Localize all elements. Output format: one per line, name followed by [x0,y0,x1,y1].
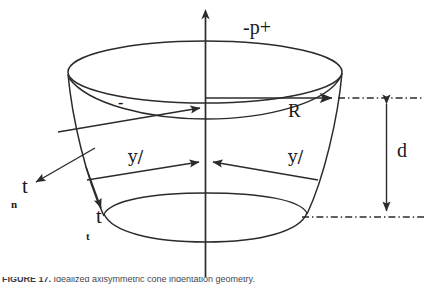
cone-left-wall [68,74,104,216]
traction-normal-label: t [22,176,28,197]
figure-caption: FIGURE 17. Idealized axisymmetric cone i… [2,277,255,284]
traction-normal-subscript: n [11,199,17,210]
radius-label: R [288,101,301,120]
axis-pressure-label: -p+ [243,17,271,37]
caption-rest: Idealized axisymmetric cone indentation … [51,277,255,284]
traction-tangential-subscript: t [86,231,90,242]
figure-container: -p+ R d y/ y/ t n t t - FIGURE 17. Ideal… [0,0,430,286]
traction-tangential-label: t [96,206,102,227]
figure-caption-bar: FIGURE 17. Idealized axisymmetric cone i… [0,277,430,286]
gamma-right-label: y/ [288,148,303,165]
upper-oblique-arrow [58,108,200,132]
gamma-left-label: y/ [128,148,143,165]
depth-label: d [397,140,407,160]
cone-right-wall [307,73,342,214]
traction-tangential-arrow [86,167,101,208]
symmetry-axis [201,9,209,277]
top-minus-sign: - [118,95,123,111]
caption-prefix: FIGURE 17. [2,277,51,284]
cone-diagram [0,0,430,286]
